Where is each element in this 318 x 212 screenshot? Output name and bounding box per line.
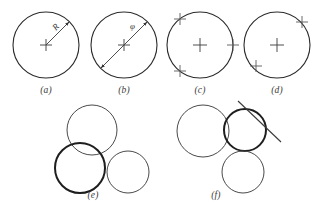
panel-e-circle-bottom-left-emphasized	[55, 143, 105, 193]
panel-label-e: (e)	[88, 190, 99, 200]
panel-f-circle-left	[177, 105, 229, 157]
panel-e-group	[55, 105, 149, 193]
panel-d-center-cross	[270, 38, 284, 52]
panel-label-d: (d)	[271, 85, 282, 95]
panel-a-group	[13, 12, 79, 78]
panel-label-a: (a)	[40, 85, 51, 95]
panel-f-tangent-line	[238, 101, 281, 142]
panel-label-c: (c)	[195, 85, 206, 95]
panel-label-f: (f)	[211, 190, 220, 200]
panel-b-diameter-symbol: φ	[130, 21, 135, 31]
panel-f-circle-bottom	[222, 151, 264, 193]
panel-e-circle-top	[67, 105, 117, 155]
panel-b-group	[91, 12, 157, 78]
panel-d-edge-mark-top-right	[296, 16, 308, 28]
panel-e-circle-bottom-right	[107, 151, 149, 193]
panel-f-circle-tangent-emphasized	[224, 109, 266, 151]
panel-c-edge-mark-right	[227, 39, 239, 51]
panel-d-edge-mark-bottom-left	[250, 60, 262, 72]
panel-b-diameter-arrow	[101, 22, 147, 68]
panel-label-b: (b)	[118, 85, 129, 95]
panel-c-center-cross	[193, 38, 207, 52]
panel-f-group	[177, 101, 281, 193]
panel-c-group	[167, 12, 239, 78]
figure-drawing-canvas	[0, 0, 318, 212]
figure-container: R φ (a) (b) (c) (d) (e) (f)	[0, 0, 318, 212]
panel-d-group	[244, 12, 310, 78]
